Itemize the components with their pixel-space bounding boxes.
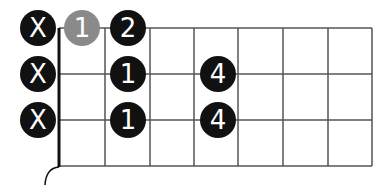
finger-marker: 1 bbox=[110, 102, 146, 138]
finger-marker: 4 bbox=[200, 102, 236, 138]
svg-text:X: X bbox=[29, 105, 47, 135]
finger-marker: 1 bbox=[110, 56, 146, 92]
svg-text:4: 4 bbox=[210, 105, 227, 135]
svg-text:2: 2 bbox=[120, 13, 137, 43]
svg-text:1: 1 bbox=[120, 105, 137, 135]
chord-diagram: XXX121414 bbox=[0, 0, 392, 189]
muted-string-x-icon: X bbox=[20, 56, 56, 92]
muted-string-x-icon: X bbox=[20, 102, 56, 138]
svg-text:4: 4 bbox=[210, 59, 227, 89]
finger-marker: 1 bbox=[64, 10, 100, 46]
finger-markers: XXX121414 bbox=[20, 10, 236, 138]
svg-text:1: 1 bbox=[74, 13, 91, 43]
finger-marker: 2 bbox=[110, 10, 146, 46]
muted-string-x-icon: X bbox=[20, 10, 56, 46]
finger-marker: 4 bbox=[200, 56, 236, 92]
svg-text:X: X bbox=[29, 13, 47, 43]
svg-text:X: X bbox=[29, 59, 47, 89]
svg-text:1: 1 bbox=[120, 59, 137, 89]
neck-curve bbox=[45, 167, 59, 185]
